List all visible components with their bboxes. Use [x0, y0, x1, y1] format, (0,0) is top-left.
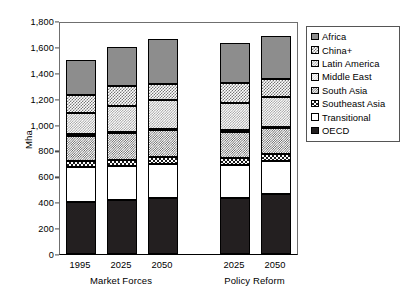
legend-item[interactable]: Transitional [311, 110, 396, 123]
bar-segment [66, 202, 96, 254]
plot-area [59, 22, 298, 255]
legend-item[interactable]: OECD [311, 124, 396, 137]
legend-swatch-icon [311, 113, 319, 121]
legend-label: Africa [322, 31, 346, 42]
legend-label: OECD [322, 125, 349, 136]
y-axis-tick-label: 800 [10, 146, 54, 156]
bar-segment [148, 84, 178, 100]
chart-legend: AfricaChina+Latin AmericaMiddle EastSout… [306, 26, 400, 142]
y-axis-tick-label: 600 [10, 172, 54, 182]
bar-segment [107, 133, 137, 160]
legend-label: China+ [322, 45, 352, 56]
bar-segment [148, 164, 178, 198]
legend-label: Transitional [322, 112, 371, 123]
stacked-bar [261, 36, 291, 254]
x-axis-group-label: Market Forces [61, 275, 181, 286]
bar-segment [261, 128, 291, 155]
stacked-bar [66, 60, 96, 254]
legend-item[interactable]: Latin America [311, 57, 396, 70]
x-axis-group-label: Policy Reform [195, 275, 315, 286]
bar-segment [261, 161, 291, 193]
y-axis-tick-label: 1,400 [10, 69, 54, 79]
y-axis-tick-label: 1,600 [10, 43, 54, 53]
legend-swatch-icon [311, 46, 319, 54]
y-axis-tick-label: 1,000 [10, 121, 54, 131]
bar-segment [107, 160, 137, 166]
bar-segment [66, 60, 96, 95]
y-axis-tick-label: 400 [10, 198, 54, 208]
y-axis-tick-label: 1,200 [10, 95, 54, 105]
bar-segment [107, 47, 137, 86]
y-axis-tick-label: 0 [10, 250, 54, 260]
stacked-bar [107, 47, 137, 254]
legend-swatch-icon [311, 33, 319, 41]
x-axis-tick-label: 2050 [245, 260, 305, 270]
bar-segment [66, 136, 96, 162]
legend-item[interactable]: South Asia [311, 84, 396, 97]
legend-item[interactable]: Middle East [311, 70, 396, 83]
stacked-bar [220, 43, 250, 254]
legend-swatch-icon [311, 127, 319, 135]
bar-segment [107, 200, 137, 254]
bar-segment [220, 83, 250, 104]
legend-swatch-icon [311, 60, 319, 68]
stacked-bar [148, 39, 178, 254]
x-axis-tick-label: 2050 [132, 260, 192, 270]
legend-swatch-icon [311, 87, 319, 95]
bar-segment [66, 95, 96, 113]
y-axis-title: Mha [23, 110, 34, 170]
bar-segment [148, 198, 178, 254]
bar-segment [261, 79, 291, 98]
bar-segment [107, 86, 137, 106]
bar-segment [66, 167, 96, 201]
legend-label: Southeast Asia [322, 98, 385, 109]
y-axis-tick-label: 1,800 [10, 17, 54, 27]
legend-label: Latin America [322, 58, 379, 69]
bar-segment [107, 106, 137, 132]
bar-segment [261, 36, 291, 79]
legend-item[interactable]: Africa [311, 30, 396, 43]
legend-item[interactable]: China+ [311, 43, 396, 56]
bar-segment [220, 43, 250, 82]
bar-segment [148, 100, 178, 129]
legend-label: South Asia [322, 85, 367, 96]
y-axis-tick-label: 200 [10, 224, 54, 234]
bar-segment [66, 161, 96, 167]
bar-segment [220, 103, 250, 130]
chart-container: Mha 1,8001,6001,4001,2001,00080060040020… [0, 0, 406, 303]
bar-segment [148, 130, 178, 157]
bar-segment [220, 198, 250, 254]
legend-item[interactable]: Southeast Asia [311, 97, 396, 110]
bar-segment [220, 165, 250, 198]
bar-segment [148, 39, 178, 84]
legend-label: Middle East [322, 71, 372, 82]
legend-swatch-icon [311, 100, 319, 108]
bar-segment [148, 157, 178, 164]
bar-segment [66, 113, 96, 134]
bar-segment [261, 97, 291, 126]
bar-segment [107, 166, 137, 200]
bar-segment [261, 194, 291, 254]
legend-swatch-icon [311, 73, 319, 81]
bar-segment [220, 132, 250, 159]
bar-segment [261, 154, 291, 161]
bar-segment [220, 158, 250, 164]
